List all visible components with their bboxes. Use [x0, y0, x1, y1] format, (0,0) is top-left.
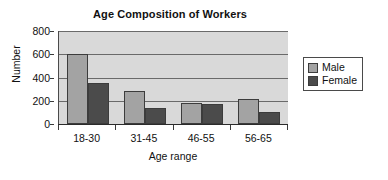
bar-chart: Age Composition of Workers Number 800600… [0, 0, 388, 180]
x-tick-label: 46-55 [173, 132, 230, 144]
y-tick-mark [50, 101, 54, 102]
x-tick-mark [230, 125, 231, 130]
x-tick-label: 18-30 [58, 132, 115, 144]
bar-male[interactable] [238, 99, 259, 124]
x-tick-label: 31-45 [115, 132, 172, 144]
y-tick-label: 200 [32, 96, 50, 106]
bar-male[interactable] [124, 91, 145, 124]
x-tick-label: 56-65 [230, 132, 287, 144]
x-tick-mark [287, 125, 288, 130]
bar-group [116, 31, 173, 124]
y-tick-label: 800 [32, 26, 50, 36]
bar-group [231, 31, 288, 124]
x-axis-title: Age range [58, 150, 288, 162]
bar-male[interactable] [67, 54, 88, 124]
legend-swatch-icon [308, 76, 318, 86]
y-tick-label: 600 [32, 49, 50, 59]
plot-area [58, 31, 288, 124]
legend-label: Female [322, 75, 357, 86]
bar-female[interactable] [88, 83, 109, 124]
chart-title: Age Composition of Workers [0, 8, 340, 20]
bar-groups [59, 31, 288, 124]
bar-male[interactable] [181, 103, 202, 125]
bar-female[interactable] [202, 104, 223, 124]
x-tick-mark [115, 125, 116, 130]
y-axis-ticks: 8006004002000 [14, 24, 54, 128]
legend-label: Male [322, 62, 345, 73]
y-tick-mark [50, 78, 54, 79]
y-tick-mark [50, 31, 54, 32]
legend-swatch-icon [308, 63, 318, 73]
bar-female[interactable] [259, 112, 280, 124]
chart-legend: MaleFemale [303, 57, 363, 91]
bar-female[interactable] [145, 108, 166, 124]
bar-group [174, 31, 231, 124]
y-tick-label: 400 [32, 73, 50, 83]
x-tick-mark [58, 125, 59, 130]
legend-item-male[interactable]: Male [308, 61, 357, 74]
legend-item-female[interactable]: Female [308, 74, 357, 87]
x-tick-mark [173, 125, 174, 130]
bar-group [59, 31, 116, 124]
y-tick-mark [50, 54, 54, 55]
y-tick-mark [50, 124, 54, 125]
